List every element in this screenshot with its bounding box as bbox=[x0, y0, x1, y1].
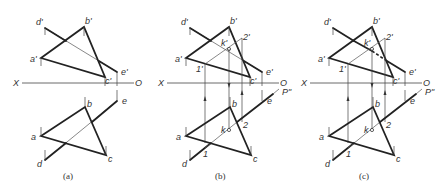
label-X: X bbox=[157, 78, 165, 88]
label-b: b bbox=[232, 99, 237, 109]
label-O: O bbox=[135, 78, 142, 88]
caption-a: (a) bbox=[63, 171, 73, 181]
label-e: e bbox=[122, 96, 127, 106]
label-a-prime: a' bbox=[175, 54, 182, 64]
label-e-prime: e' bbox=[121, 67, 128, 77]
point-k bbox=[227, 128, 230, 131]
label-d: d bbox=[182, 159, 188, 169]
label-1-prime: 1' bbox=[196, 64, 203, 74]
label-b-prime: b' bbox=[85, 16, 92, 26]
label-k: k bbox=[364, 125, 369, 135]
label-d-prime: d' bbox=[324, 17, 331, 27]
line-d-prime-visible bbox=[190, 28, 211, 41]
label-d-prime: d' bbox=[181, 17, 188, 27]
label-c: c bbox=[253, 154, 258, 164]
label-b-prime: b' bbox=[230, 16, 237, 26]
line-d-visible bbox=[45, 143, 66, 160]
label-k: k bbox=[221, 125, 226, 135]
label-k-prime: k' bbox=[364, 38, 371, 48]
line-d-prime-visible bbox=[45, 28, 66, 41]
label-a: a bbox=[319, 132, 324, 142]
label-1: 1 bbox=[203, 149, 208, 159]
label-b: b bbox=[375, 99, 380, 109]
label-a: a bbox=[31, 132, 36, 142]
label-e-prime: e' bbox=[266, 67, 273, 77]
label-2-prime: 2' bbox=[242, 32, 250, 42]
label-c-prime: c' bbox=[393, 76, 400, 86]
arrow-up-icon bbox=[384, 90, 387, 95]
label-d-prime: d' bbox=[36, 17, 43, 27]
label-e-prime: e' bbox=[409, 67, 416, 77]
label-a: a bbox=[176, 132, 181, 142]
label-X: X bbox=[300, 78, 308, 88]
label-1-prime: 1' bbox=[339, 64, 346, 74]
label-e: e bbox=[267, 96, 272, 106]
panel-a: X O d' b' a' c' e' b e a c d (a) bbox=[12, 16, 142, 181]
label-P: P" bbox=[425, 87, 435, 97]
label-c: c bbox=[396, 154, 401, 164]
label-k-prime: k' bbox=[221, 38, 228, 48]
panel-b: X O d' b' a' c' e' k' 1' 2' P" b e a c d… bbox=[157, 16, 292, 181]
trace-P bbox=[416, 89, 422, 94]
triangle-top-view bbox=[186, 107, 251, 155]
line-d-prime-visible bbox=[333, 28, 354, 41]
caption-b: (b) bbox=[215, 171, 226, 181]
label-2-prime: 2' bbox=[385, 32, 393, 42]
label-2: 2 bbox=[385, 120, 391, 130]
arrow-down-icon bbox=[371, 83, 374, 88]
arrow-up-icon bbox=[204, 96, 207, 101]
label-d: d bbox=[37, 159, 43, 169]
label-2: 2 bbox=[242, 120, 248, 130]
panel-c: X O d' b' a' c' e' k' 1' 2' P" b e a c d… bbox=[300, 16, 435, 181]
label-a-prime: a' bbox=[30, 54, 37, 64]
label-b-prime: b' bbox=[373, 16, 380, 26]
caption-c: (c) bbox=[359, 171, 369, 181]
label-X: X bbox=[12, 78, 20, 88]
label-c-prime: c' bbox=[105, 76, 112, 86]
label-e: e bbox=[410, 96, 415, 106]
label-c-prime: c' bbox=[250, 76, 257, 86]
label-1: 1 bbox=[346, 149, 351, 159]
descriptive-geometry-figure: X O d' b' a' c' e' b e a c d (a) bbox=[0, 0, 444, 191]
label-b: b bbox=[87, 99, 92, 109]
triangle-top-view bbox=[41, 107, 106, 155]
trace-P bbox=[273, 89, 279, 94]
label-P: P" bbox=[282, 87, 292, 97]
point-k bbox=[370, 128, 373, 131]
triangle-top-view bbox=[329, 107, 394, 155]
arrow-down-icon bbox=[228, 83, 231, 88]
triangle-front-view bbox=[41, 27, 105, 77]
label-d: d bbox=[325, 159, 331, 169]
arrow-up-icon bbox=[241, 90, 244, 95]
arrow-up-icon bbox=[347, 96, 350, 101]
line-e-visible bbox=[92, 101, 117, 122]
label-a-prime: a' bbox=[318, 54, 325, 64]
label-c: c bbox=[108, 154, 113, 164]
